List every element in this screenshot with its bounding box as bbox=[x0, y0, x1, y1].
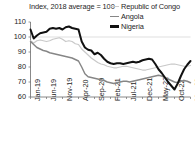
plot-area bbox=[0, 0, 195, 142]
axes bbox=[31, 22, 191, 97]
line-chart: Index, 2018 average = 100 Republic of Co… bbox=[0, 0, 195, 142]
series-line-nigeria bbox=[31, 27, 191, 90]
axis-ticks bbox=[29, 22, 191, 99]
